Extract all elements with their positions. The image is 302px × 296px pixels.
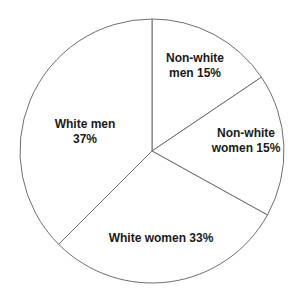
slice-label-white-women: White women 33% bbox=[109, 231, 214, 245]
slice-label-non-white-women: women 15% bbox=[211, 141, 281, 155]
pie-chart: Non-whitemen 15%Non-whitewomen 15%White … bbox=[0, 0, 302, 296]
slice-label-white-men: White men bbox=[55, 117, 116, 131]
slice-label-non-white-women: Non-white bbox=[217, 126, 275, 140]
slice-label-non-white-men: Non-white bbox=[166, 51, 224, 65]
slice-label-white-men: 37% bbox=[73, 132, 97, 146]
slice-label-non-white-men: men 15% bbox=[169, 66, 221, 80]
